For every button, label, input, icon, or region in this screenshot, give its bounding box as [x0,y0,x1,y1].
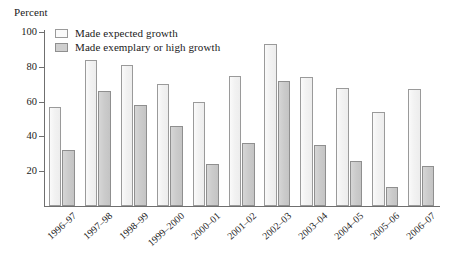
x-axis-tick-label: 1996–97 [45,210,78,242]
x-axis-tick-label: 2001–02 [224,210,257,242]
y-axis-tick-label: 80 [1,62,37,72]
bar-expected-2006-07 [408,89,421,206]
x-axis-tick-label: 2003–04 [296,210,329,242]
bar-exemplary-2006-07 [422,166,435,206]
bar-expected-2001-02 [229,76,242,207]
bar-expected-2000-01 [193,102,206,206]
bar-expected-1998-99 [121,65,134,206]
legend-item-exemplary: Made exemplary or high growth [55,40,220,54]
x-axis-tick-label: 2000–01 [189,210,222,242]
legend-item-expected: Made expected growth [55,26,220,40]
x-axis-tick-label: 1997–98 [81,210,114,242]
x-axis-tick-label: 1999–2000 [145,210,186,248]
bar-expected-1999-2000 [157,84,170,206]
bar-expected-2004-05 [336,88,349,206]
bar-exemplary-2000-01 [206,164,219,206]
y-axis-tick-label: 20 [1,166,37,176]
bar-exemplary-2001-02 [242,143,255,206]
bar-exemplary-1998-99 [134,105,147,206]
x-axis-tick-label: 2002–03 [260,210,293,242]
x-axis-tick-label: 2006–07 [404,210,437,242]
x-axis-tick-label: 2005–06 [368,210,401,242]
bar-expected-2003-04 [300,77,313,206]
y-axis-title: Percent [14,6,48,18]
bar-expected-1997-98 [85,60,98,206]
bar-exemplary-2005-06 [386,187,399,206]
chart-figure: Percent 20406080100 1996–971997–981998–9… [0,0,450,266]
bar-exemplary-2004-05 [350,161,363,206]
bar-exemplary-1996-97 [62,150,75,206]
plot-area [45,32,440,206]
legend-label-exemplary: Made exemplary or high growth [75,40,220,54]
legend-swatch-icon-expected [55,29,68,38]
legend-swatch-icon-exemplary [55,43,68,52]
bar-exemplary-1999-2000 [170,126,183,206]
x-axis-tick-label: 1998–99 [117,210,150,242]
bar-expected-1996-97 [49,107,62,206]
y-axis-tick-label: 60 [1,97,37,107]
chart-legend: Made expected growth Made exemplary or h… [55,26,220,54]
bar-exemplary-2002-03 [278,81,291,206]
legend-label-expected: Made expected growth [75,26,178,40]
y-axis-tick-label: 40 [1,131,37,141]
bar-exemplary-2003-04 [314,145,327,206]
bar-expected-2005-06 [372,112,385,206]
bar-exemplary-1997-98 [98,91,111,206]
bar-expected-2002-03 [264,44,277,206]
x-axis-line [44,206,440,207]
y-axis-tick-label: 100 [1,27,37,37]
x-axis-tick-label: 2004–05 [332,210,365,242]
